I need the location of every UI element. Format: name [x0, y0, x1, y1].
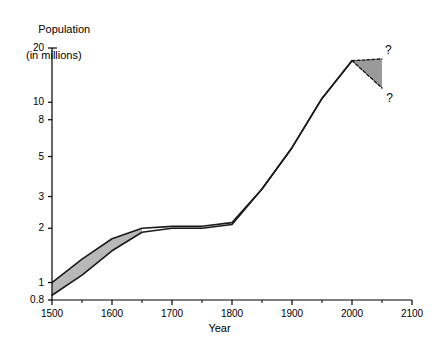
- y-axis-tick-label: 3: [10, 191, 44, 202]
- y-axis-tick-label: 5: [10, 151, 44, 162]
- historical-uncertainty-band: [52, 228, 142, 295]
- projection-uncertainty-fan: [352, 59, 382, 88]
- x-axis-tick-label: 1700: [150, 308, 194, 319]
- y-axis-tick-label: 2: [10, 222, 44, 233]
- axes: [48, 48, 412, 305]
- series-upper-estimate: [52, 61, 352, 283]
- upper-question-mark: ?: [385, 43, 392, 57]
- x-axis-tick-label: 2100: [390, 308, 434, 319]
- x-axis-tick-label: 1900: [270, 308, 314, 319]
- y-axis-tick-label: 0.8: [10, 294, 44, 305]
- plot-area: [0, 0, 439, 348]
- y-axis-tick-label: 10: [10, 96, 44, 107]
- x-axis-tick-label: 1600: [90, 308, 134, 319]
- x-axis-tick-label: 1500: [30, 308, 74, 319]
- lower-question-mark: ?: [386, 91, 393, 105]
- x-axis-tick-label: 2000: [330, 308, 374, 319]
- x-axis-tick-label: 1800: [210, 308, 254, 319]
- y-axis-tick-label: 20: [10, 42, 44, 53]
- population-chart: Population (in millions) Year 2010853210…: [0, 0, 439, 348]
- y-axis-tick-label: 1: [10, 277, 44, 288]
- y-axis-tick-label: 8: [10, 114, 44, 125]
